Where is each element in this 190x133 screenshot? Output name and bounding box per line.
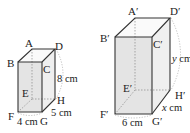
label-C-prime: C′ xyxy=(153,38,163,50)
right-front-face xyxy=(115,37,152,114)
label-C: C xyxy=(43,63,50,75)
left-height-label: 8 cm xyxy=(57,73,78,84)
right-width-label: 6 cm xyxy=(122,117,143,128)
left-width-label: 4 cm xyxy=(17,116,38,127)
label-B-prime: B′ xyxy=(100,32,110,44)
label-H-prime: H′ xyxy=(175,89,185,101)
left-depth-label: 5 cm xyxy=(51,107,72,118)
label-A: A xyxy=(25,37,33,49)
label-G: G xyxy=(40,115,48,127)
label-F: F xyxy=(8,110,14,122)
label-F-prime: F′ xyxy=(100,108,109,120)
label-D-prime: D′ xyxy=(170,5,180,17)
label-E: E xyxy=(22,87,29,99)
prism-diagram: A D B C E H F G 8 cm 5 cm 4 cm A′ D′ B′ … xyxy=(0,0,190,133)
right-height-label: y cm xyxy=(171,53,190,64)
label-B: B xyxy=(7,57,14,69)
label-D: D xyxy=(55,40,63,52)
label-E-prime: E′ xyxy=(123,82,132,94)
left-prism: A D B C E H F G 8 cm 5 cm 4 cm xyxy=(7,37,78,127)
label-H: H xyxy=(57,94,65,106)
label-A-prime: A′ xyxy=(128,5,138,17)
label-G-prime: G′ xyxy=(152,115,162,127)
right-prism: A′ D′ B′ C′ E′ H′ F′ G′ y cm x cm 6 cm xyxy=(100,5,190,128)
right-depth-label: x cm xyxy=(161,102,182,113)
